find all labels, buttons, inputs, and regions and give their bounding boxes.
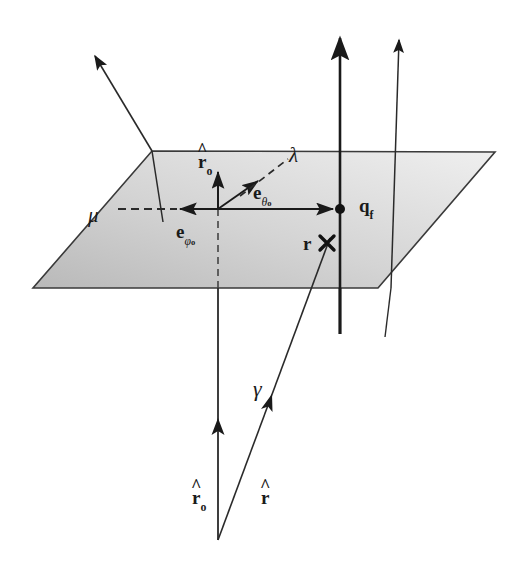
diagram-canvas: [0, 0, 514, 563]
label-lambda: λ: [289, 145, 298, 166]
label-mu: μ: [88, 205, 99, 226]
label-e-phi-0: eφo: [176, 222, 195, 246]
label-q-f: qf: [359, 196, 374, 220]
vector-geometry-figure: ^ro λ eθo eφo μ qf r γ ^ro ^r: [0, 0, 514, 563]
hat-accent-icon: ^: [191, 477, 201, 495]
label-r-hat-0-plane: ^ro: [198, 152, 212, 176]
outer-vertical-arrow-below: [385, 288, 391, 337]
qf-point-dot: [335, 204, 345, 214]
label-e-theta-0: eθo: [253, 183, 272, 207]
reference-plane: [33, 151, 495, 288]
hat-accent-icon: ^: [197, 141, 207, 159]
label-r-hat-0-bottom: ^ro: [192, 488, 206, 512]
hat-accent-icon: ^: [260, 477, 270, 495]
label-gamma: γ: [253, 378, 262, 400]
label-r-bold: r: [303, 234, 311, 253]
mu-arrow: [95, 56, 152, 151]
label-r-hat-bottom: ^r: [261, 488, 269, 507]
